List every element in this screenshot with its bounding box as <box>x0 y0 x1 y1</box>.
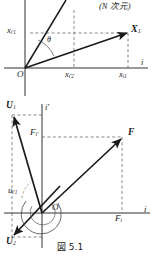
n-dimension-annotation: (N 次元) <box>99 2 130 11</box>
label-F-i-prime: Fi' <box>30 128 38 138</box>
label-F-i: Fi <box>115 214 122 224</box>
upper-vector-X1 <box>25 33 127 68</box>
label-X1: X1 <box>131 24 141 35</box>
label-x-i-prime-1: xi'1 <box>7 26 16 35</box>
figure-5-1 <box>0 0 160 261</box>
label-origin-lower: O <box>52 203 59 212</box>
label-F: F <box>128 128 134 138</box>
upper-vector-iprime-axis <box>25 0 66 68</box>
label-U2: U2 <box>6 237 16 247</box>
lower-angle-arc-dashed <box>22 182 31 198</box>
label-axis-i-lower: i <box>144 205 146 214</box>
upper-panel <box>4 0 148 96</box>
lower-panel <box>4 104 150 248</box>
figure-caption: 図 5.1 <box>57 240 83 253</box>
label-origin-upper: O <box>17 70 24 79</box>
label-u-i-prime-1: ui'1 <box>8 186 17 195</box>
label-x-i-prime-2: xi'2 <box>65 70 74 79</box>
label-axis-i-upper: i <box>141 58 143 67</box>
label-axis-i-prime-lower: i' <box>45 103 49 112</box>
label-x-i-1: xi1 <box>119 70 127 79</box>
label-U1: U1 <box>6 101 16 111</box>
label-theta: θ <box>47 36 51 44</box>
